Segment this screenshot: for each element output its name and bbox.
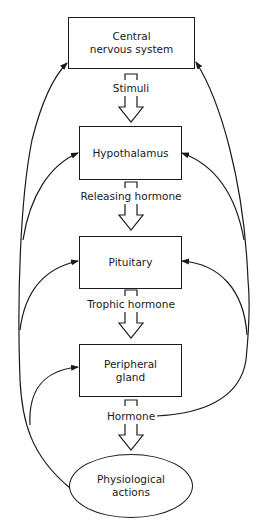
feedback-right-hypothalamus xyxy=(182,153,244,240)
node-central-nervous-system: Central nervous system xyxy=(68,17,195,69)
edge-label-releasing-hormone: Releasing hormone xyxy=(78,190,183,202)
hypothalamus-label: Hypothalamus xyxy=(92,147,168,160)
cns-label-line2: nervous system xyxy=(90,43,174,56)
node-hypothalamus: Hypothalamus xyxy=(79,126,182,180)
endocrine-feedback-diagram: Central nervous system Hypothalamus Pitu… xyxy=(0,0,257,530)
edge-label-stimuli: Stimuli xyxy=(111,82,151,94)
feedback-left-hypothalamus xyxy=(23,153,78,240)
cns-label-line1: Central xyxy=(112,30,150,43)
node-peripheral-gland: Peripheral gland xyxy=(79,344,182,397)
hormone-arrow xyxy=(119,400,143,450)
feedback-right-pituitary xyxy=(182,261,247,335)
node-pituitary: Pituitary xyxy=(79,236,182,289)
feedback-left-peripheral xyxy=(30,367,78,425)
edge-label-hormone: Hormone xyxy=(105,410,157,422)
pituitary-label: Pituitary xyxy=(109,256,153,269)
peripheral-label-line2: gland xyxy=(116,371,145,384)
node-physiological-actions: Physiological actions xyxy=(69,454,193,518)
physiological-label-line1: Physiological xyxy=(97,473,165,486)
physiological-label-line2: actions xyxy=(112,486,150,499)
feedback-left-main xyxy=(19,63,70,488)
feedback-left-pituitary xyxy=(20,261,78,330)
peripheral-label-line1: Peripheral xyxy=(104,358,157,371)
edge-label-trophic-hormone: Trophic hormone xyxy=(85,298,177,310)
